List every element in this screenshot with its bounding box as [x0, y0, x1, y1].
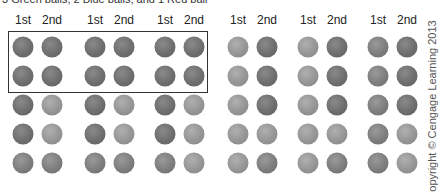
draw-label-first: 1st [230, 13, 246, 27]
ball-icon [13, 124, 34, 145]
ball-icon [13, 37, 34, 58]
ball-icon [155, 37, 176, 58]
draw-label-second: 2nd [327, 13, 347, 27]
ball-icon [228, 124, 249, 145]
ball-icon [13, 95, 34, 116]
ball-icon [184, 95, 205, 116]
copyright-notice: Copyright © Cengage Learning 2013 [426, 20, 438, 192]
ball-icon [42, 124, 63, 145]
ball-icon [155, 124, 176, 145]
ball-icon [155, 95, 176, 116]
ball-icon [184, 124, 205, 145]
draw-label-first: 1st [157, 13, 173, 27]
ball-icon [184, 153, 205, 174]
ball-icon [327, 37, 348, 58]
ball-icon [184, 66, 205, 87]
ball-icon [114, 124, 135, 145]
ball-icon [397, 95, 418, 116]
ball-icon [85, 95, 106, 116]
ball-icon [184, 37, 205, 58]
ball-icon [298, 124, 319, 145]
ball-icon [397, 37, 418, 58]
caption: 3 Green balls, 2 Blue balls, and 1 Red b… [2, 0, 207, 5]
ball-icon [114, 95, 135, 116]
ball-icon [228, 95, 249, 116]
ball-icon [368, 124, 389, 145]
ball-icon [327, 66, 348, 87]
ball-icon [228, 66, 249, 87]
ball-icon [114, 153, 135, 174]
ball-icon [257, 153, 278, 174]
ball-icon [257, 66, 278, 87]
ball-icon [42, 37, 63, 58]
ball-icon [13, 153, 34, 174]
draw-label-first: 1st [15, 13, 31, 27]
ball-icon [85, 124, 106, 145]
ball-icon [85, 153, 106, 174]
ball-icon [228, 153, 249, 174]
ball-icon [42, 95, 63, 116]
ball-icon [298, 153, 319, 174]
ball-icon [42, 153, 63, 174]
ball-icon [114, 66, 135, 87]
highlight-box [8, 31, 208, 93]
ball-icon [228, 37, 249, 58]
ball-icon [155, 66, 176, 87]
draw-label-second: 2nd [114, 13, 134, 27]
ball-icon [155, 153, 176, 174]
ball-icon [85, 66, 106, 87]
ball-icon [13, 66, 34, 87]
ball-icon [327, 153, 348, 174]
ball-icon [257, 124, 278, 145]
ball-icon [114, 37, 135, 58]
ball-icon [298, 66, 319, 87]
ball-icon [397, 66, 418, 87]
ball-icon [368, 95, 389, 116]
draw-label-second: 2nd [42, 13, 62, 27]
ball-icon [368, 37, 389, 58]
ball-icon [368, 66, 389, 87]
draw-label-first: 1st [87, 13, 103, 27]
ball-icon [257, 95, 278, 116]
ball-icon [368, 153, 389, 174]
ball-icon [42, 66, 63, 87]
ball-icon [298, 95, 319, 116]
ball-icon [298, 37, 319, 58]
draw-label-first: 1st [300, 13, 316, 27]
ball-icon [257, 37, 278, 58]
draw-label-first: 1st [370, 13, 386, 27]
ball-icon [327, 124, 348, 145]
ball-icon [397, 124, 418, 145]
draw-label-second: 2nd [257, 13, 277, 27]
ball-icon [397, 153, 418, 174]
draw-label-second: 2nd [184, 13, 204, 27]
ball-icon [327, 95, 348, 116]
ball-icon [85, 37, 106, 58]
draw-label-second: 2nd [397, 13, 417, 27]
